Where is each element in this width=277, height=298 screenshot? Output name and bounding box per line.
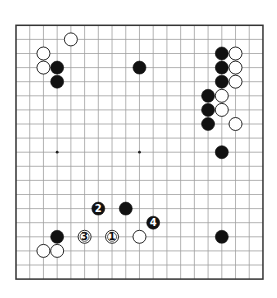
black-stone[interactable] xyxy=(202,118,215,131)
numbered-white-stone-1[interactable]: 1 xyxy=(106,230,119,243)
move-number: 3 xyxy=(81,231,88,242)
numbered-white-stone-3[interactable]: 3 xyxy=(78,230,91,243)
move-number: 2 xyxy=(95,203,102,214)
white-stone[interactable] xyxy=(64,33,77,46)
white-stone[interactable] xyxy=(37,61,50,74)
numbered-black-stone-2[interactable]: 2 xyxy=(92,202,105,215)
black-stone[interactable] xyxy=(215,146,228,159)
go-board[interactable]: 1234 xyxy=(0,0,277,298)
numbered-black-stone-4[interactable]: 4 xyxy=(147,216,160,229)
white-stone[interactable] xyxy=(229,118,242,131)
white-stone[interactable] xyxy=(51,244,64,257)
white-stone[interactable] xyxy=(215,89,228,102)
black-stone[interactable] xyxy=(51,230,64,243)
star-point xyxy=(56,151,59,154)
black-stone[interactable] xyxy=(215,61,228,74)
move-number: 4 xyxy=(150,217,157,228)
black-stone[interactable] xyxy=(202,103,215,116)
white-stone[interactable] xyxy=(229,61,242,74)
white-stone[interactable] xyxy=(133,230,146,243)
black-stone[interactable] xyxy=(133,61,146,74)
black-stone[interactable] xyxy=(215,230,228,243)
black-stone[interactable] xyxy=(51,61,64,74)
white-stone[interactable] xyxy=(37,47,50,60)
white-stone[interactable] xyxy=(229,75,242,88)
white-stone[interactable] xyxy=(37,244,50,257)
black-stone[interactable] xyxy=(202,89,215,102)
black-stone[interactable] xyxy=(215,75,228,88)
move-number: 1 xyxy=(109,231,116,242)
white-stone[interactable] xyxy=(229,47,242,60)
black-stone[interactable] xyxy=(51,75,64,88)
black-stone[interactable] xyxy=(215,47,228,60)
star-point xyxy=(138,151,141,154)
black-stone[interactable] xyxy=(119,202,132,215)
white-stone[interactable] xyxy=(215,103,228,116)
